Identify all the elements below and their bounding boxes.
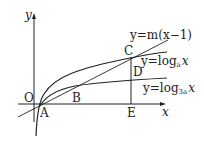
y-axis-arrow-icon bbox=[32, 13, 36, 19]
log-diagram: y x O A B C D E y=m(x−1) y=logax y=log3a… bbox=[0, 0, 204, 141]
x-axis-label: x bbox=[162, 105, 169, 119]
log-3a-label: y=log3ax bbox=[142, 81, 195, 96]
log-a-label: y=logax bbox=[140, 54, 189, 69]
y-axis-label: y bbox=[24, 8, 32, 22]
point-e-label: E bbox=[127, 106, 136, 120]
line-label: y=m(x−1) bbox=[129, 28, 192, 42]
point-a-label: A bbox=[39, 106, 49, 120]
point-b-label: B bbox=[72, 91, 81, 105]
origin-label: O bbox=[24, 91, 34, 105]
point-c-label: C bbox=[124, 44, 133, 58]
